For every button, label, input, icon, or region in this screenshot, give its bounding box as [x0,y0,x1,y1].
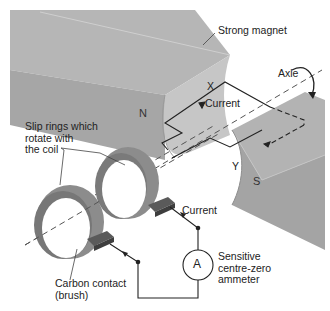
circuit-current-label: Current [182,205,217,217]
north-pole-label: N [139,107,147,119]
magnet-label: Strong magnet [218,25,287,37]
axle-label: Axle [278,68,298,80]
coil-side-y-label: Y [232,161,239,173]
ammeter-symbol: A [193,259,201,271]
south-magnet [232,92,325,250]
coil-side-x-label: X [207,81,214,93]
brush-label: Carbon contact (brush) [55,278,126,301]
slip-ring-back [95,147,159,219]
slip-ring-front [34,185,104,259]
ammeter-label: Sensitive centre-zero ammeter [218,251,271,286]
generator-diagram [0,0,330,311]
south-pole-label: S [253,175,260,187]
slip-rings-label: Slip rings which rotate with the coil [25,121,98,156]
coil-current-label: Current [205,98,240,110]
